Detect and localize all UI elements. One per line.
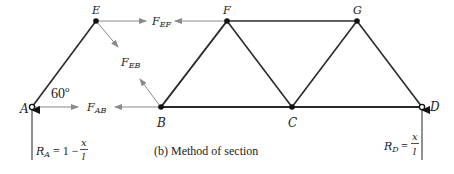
figure-caption: (b) Method of section: [154, 144, 258, 158]
reaction-label-R_A: RA = 1 − x l: [35, 137, 88, 162]
node-label-E: E: [91, 4, 100, 17]
force-label-F_EB: FEB: [120, 56, 140, 70]
reaction-label-R_D: RD = x l: [383, 131, 419, 157]
svg-text:l: l: [413, 146, 416, 157]
node-E: [93, 18, 99, 24]
svg-text:x: x: [81, 137, 87, 148]
angle-degree-mark: o: [65, 84, 70, 94]
angle-label: 60o: [51, 84, 70, 101]
svg-text:= 1 −: = 1 −: [53, 144, 79, 158]
node-B: [158, 104, 164, 110]
svg-text:RD: RD: [383, 140, 399, 154]
member-CG: [292, 21, 357, 107]
node-label-B: B: [156, 116, 166, 130]
node-label-D: D: [429, 100, 440, 114]
force-label-F_AB: FAB: [86, 101, 106, 115]
node-G: [354, 18, 360, 24]
node-F: [224, 18, 230, 24]
node-A: [29, 104, 34, 109]
node-D: [419, 104, 424, 109]
node-C: [289, 104, 295, 110]
arrow-F_EB-at-E: [97, 22, 118, 47]
truss-members: [32, 21, 422, 107]
svg-text:x: x: [412, 131, 418, 142]
member-FC: [227, 21, 292, 107]
angle-value: 60: [51, 86, 65, 101]
svg-text:=: =: [401, 139, 408, 153]
svg-text:l: l: [82, 151, 85, 162]
force-label-F_EF: FEF: [151, 15, 171, 29]
node-label-A: A: [19, 102, 29, 116]
member-GD: [357, 21, 422, 107]
node-label-C: C: [288, 116, 297, 130]
member-BF: [161, 21, 227, 107]
node-label-G: G: [353, 4, 362, 17]
truss-diagram: A B C D E F G 60o FEF FEB FAB RA = 1 − x…: [0, 0, 454, 174]
arrow-F_EB-at-B: [140, 79, 160, 106]
svg-text:RA: RA: [35, 145, 50, 159]
node-label-F: F: [222, 4, 231, 17]
